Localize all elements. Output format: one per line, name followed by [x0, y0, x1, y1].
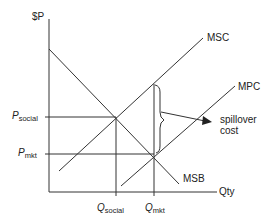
diagram-canvas — [0, 0, 277, 223]
p-social-main: P — [12, 110, 19, 121]
mpc-label: MPC — [238, 82, 260, 92]
spillover-label-line1: spillover — [220, 115, 257, 125]
y-axis-label: $P — [32, 12, 44, 22]
p-social-sub: social — [19, 114, 38, 123]
msc-curve — [59, 38, 203, 171]
spillover-label-line2: cost — [220, 126, 238, 136]
spillover-arrow-line — [161, 112, 205, 121]
p-social-label: Psocial — [12, 111, 38, 123]
p-mkt-label: Pmkt — [18, 148, 37, 160]
q-social-label: Qsocial — [97, 203, 124, 215]
q-mkt-sub: mkt — [153, 206, 165, 215]
x-axis-label: Qty — [219, 187, 235, 197]
y-axis-label-text: $P — [32, 11, 44, 22]
arrow-head-icon — [202, 116, 212, 125]
p-mkt-sub: mkt — [25, 151, 37, 160]
p-mkt-main: P — [18, 147, 25, 158]
spillover-brace — [155, 85, 164, 153]
q-social-main: Q — [97, 202, 105, 213]
q-mkt-label: Qmkt — [145, 203, 165, 215]
q-social-sub: social — [105, 206, 124, 215]
mpc-curve — [121, 86, 235, 186]
msc-label: MSC — [207, 33, 229, 43]
msb-label: MSB — [183, 174, 205, 184]
q-mkt-main: Q — [145, 202, 153, 213]
